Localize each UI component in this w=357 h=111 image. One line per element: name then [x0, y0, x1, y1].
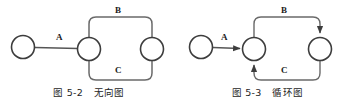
- caption-figure-5-3: 图 5-3循环图: [178, 86, 357, 99]
- edge-b-arrow: [254, 17, 320, 38]
- edge-label-a-cyclic: A: [221, 33, 228, 42]
- node-n1: [12, 36, 35, 59]
- edge-label-c-cyclic: C: [281, 66, 288, 75]
- caption-title-5-2: 无向图: [94, 87, 125, 98]
- caption-number-5-2: 图 5-2: [53, 87, 83, 98]
- cyclic-graph-canvas: [178, 0, 357, 86]
- edge-label-a-undirected: A: [56, 33, 63, 42]
- caption-title-5-3: 循环图: [272, 87, 303, 98]
- caption-number-5-3: 图 5-3: [232, 87, 262, 98]
- caption-figure-5-2: 图 5-2无向图: [0, 86, 178, 99]
- node-n2: [78, 38, 101, 61]
- edge-label-b-cyclic: B: [281, 6, 287, 15]
- undirected-graph-canvas: [0, 0, 178, 86]
- figure-page: A B C 图 5-2无向图: [0, 0, 357, 111]
- edge-a-arrow: [213, 48, 240, 49]
- figure-undirected-graph: A B C 图 5-2无向图: [0, 0, 178, 111]
- figure-cyclic-graph: A B C 图 5-3循环图: [178, 0, 357, 111]
- node-m1: [190, 36, 213, 59]
- node-m3: [309, 38, 332, 61]
- node-n3: [141, 38, 164, 61]
- node-m2: [243, 38, 266, 61]
- edge-b-path: [89, 17, 152, 38]
- edge-a-line: [35, 48, 78, 49]
- edge-label-b-undirected: B: [115, 6, 121, 15]
- edge-label-c-undirected: C: [115, 66, 122, 75]
